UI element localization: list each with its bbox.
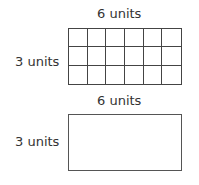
rect-height-label: 3 units	[15, 135, 59, 149]
grid-cell	[88, 66, 107, 84]
grid-cell	[88, 29, 107, 47]
grid-cell	[106, 47, 125, 65]
grid-cell	[125, 66, 144, 84]
grid-cell	[144, 47, 163, 65]
grid-cell	[144, 29, 163, 47]
grid-cell	[162, 29, 181, 47]
grid-width-label: 6 units	[97, 7, 141, 21]
grid-cell	[106, 66, 125, 84]
grid-cell	[125, 47, 144, 65]
grid-cell	[125, 29, 144, 47]
grid-cell	[162, 66, 181, 84]
grid-cell	[69, 47, 88, 65]
unit-square-grid	[68, 28, 182, 85]
plain-rectangle	[68, 114, 182, 171]
grid-cell	[88, 47, 107, 65]
grid-cell	[144, 66, 163, 84]
grid-cell	[69, 29, 88, 47]
grid-cell	[69, 66, 88, 84]
rect-width-label: 6 units	[97, 94, 141, 108]
grid-height-label: 3 units	[15, 55, 59, 69]
grid-cell	[106, 29, 125, 47]
grid-cell	[162, 47, 181, 65]
